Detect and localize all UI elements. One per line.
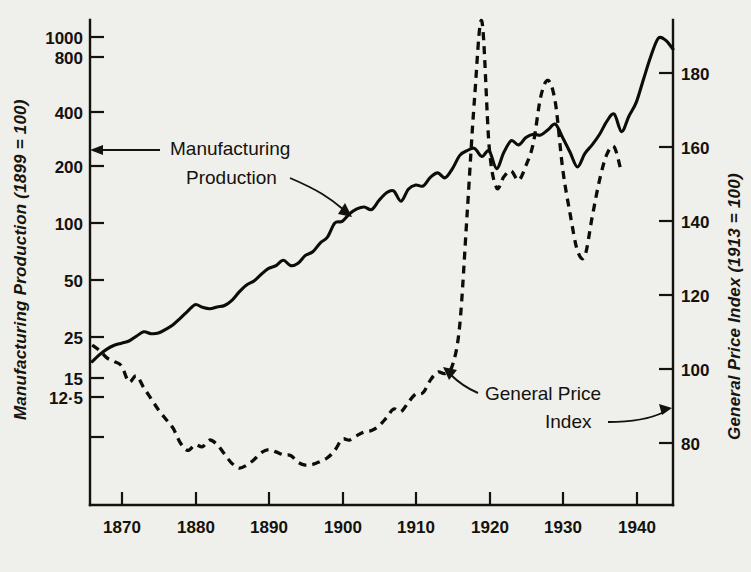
x-tick-label-1890: 1890	[250, 518, 288, 537]
manufacturing-label-line1: Manufacturing	[170, 138, 290, 159]
y-tick-label-50: 50	[64, 272, 83, 291]
y2-tick-label-180: 180	[681, 65, 709, 84]
x-tick-label-1930: 1930	[544, 518, 582, 537]
y-tick-label-800: 800	[55, 49, 83, 68]
price-label-line2: Index	[545, 411, 592, 432]
y2-tick-label-160: 160	[681, 139, 709, 158]
right-axis-title: General Price Index (1913 = 100)	[725, 173, 744, 440]
y-tick-label-400: 400	[55, 104, 83, 123]
manufacturing-label-line2: Production	[186, 167, 277, 188]
y-tick-label-15: 15	[64, 370, 83, 389]
y-tick-label-100: 100	[55, 215, 83, 234]
y-tick-label-12-5: 12·5	[49, 389, 83, 408]
price-label-line1: General Price	[485, 383, 601, 404]
chart-background	[0, 0, 751, 572]
chart-figure: 1000 800 400 200 100 50 25 15 12·5 180 1…	[0, 0, 751, 572]
y2-tick-label-80: 80	[681, 435, 700, 454]
x-tick-label-1940: 1940	[618, 518, 656, 537]
x-tick-label-1920: 1920	[471, 518, 509, 537]
x-tick-label-1910: 1910	[397, 518, 435, 537]
y-tick-label-200: 200	[55, 158, 83, 177]
x-tick-label-1870: 1870	[103, 518, 141, 537]
y-tick-label-1000: 1000	[45, 29, 83, 48]
y2-tick-label-100: 100	[681, 361, 709, 380]
x-tick-label-1900: 1900	[324, 518, 362, 537]
y2-tick-label-120: 120	[681, 287, 709, 306]
y2-tick-label-140: 140	[681, 213, 709, 232]
left-axis-title: Manufacturing Production (1899 = 100)	[11, 99, 30, 420]
x-tick-label-1880: 1880	[177, 518, 215, 537]
y-tick-label-25: 25	[64, 329, 83, 348]
